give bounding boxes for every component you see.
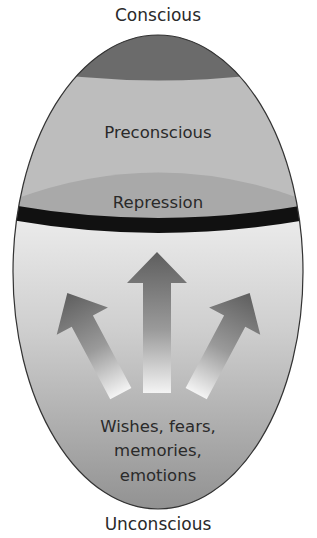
conscious-label: Conscious [115, 5, 201, 25]
repression-label: Repression [113, 193, 203, 212]
mind-model-diagram: Conscious Preconscious Repression Wishes… [0, 0, 317, 538]
preconscious-label: Preconscious [104, 123, 211, 142]
unconscious-label: Unconscious [105, 514, 212, 534]
unconscious-content-line-1: Wishes, fears, [100, 417, 216, 436]
unconscious-content-line-2: memories, [114, 441, 202, 460]
unconscious-content-line-3: emotions [120, 466, 197, 485]
